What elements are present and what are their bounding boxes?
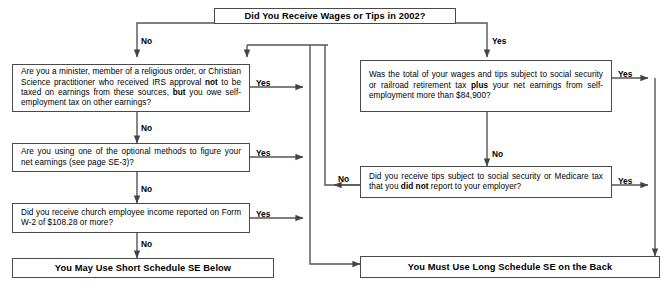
node-right-question-1: Was the total of your wages and tips sub…: [360, 60, 612, 112]
edge-label-right2-yes: Yes: [618, 177, 632, 186]
node-left-question-3: Did you receive church employee income r…: [12, 203, 250, 233]
edge-label-left3-no: No: [141, 240, 152, 249]
node-right-question-2-text: Did you receive tips subject to social s…: [361, 172, 611, 193]
node-result-short-schedule-text: You May Use Short Schedule SE Below: [13, 263, 273, 274]
node-result-long-schedule: You Must Use Long Schedule SE on the Bac…: [360, 256, 660, 278]
node-top-question: Did You Receive Wages or Tips in 2002?: [214, 8, 456, 24]
edge-label-right2-no: No: [338, 175, 349, 184]
edge-label-left1-yes: Yes: [256, 79, 270, 88]
node-left-question-1: Are you a minister, member of a religiou…: [12, 64, 250, 112]
node-right-question-2: Did you receive tips subject to social s…: [360, 166, 612, 198]
node-right-question-1-text: Was the total of your wages and tips sub…: [361, 70, 611, 101]
node-left-question-2-text: Are you using one of the optional method…: [13, 147, 249, 168]
edge-label-left1-no: No: [141, 124, 152, 133]
edge-label-right1-yes: Yes: [618, 70, 632, 79]
edge-label-top-no: No: [141, 37, 152, 46]
node-left-question-3-text: Did you receive church employee income r…: [13, 208, 249, 229]
node-left-question-1-text: Are you a minister, member of a religiou…: [13, 67, 249, 109]
edge-label-left3-yes: Yes: [256, 210, 270, 219]
edge-label-left2-no: No: [141, 185, 152, 194]
node-left-question-2: Are you using one of the optional method…: [12, 143, 250, 172]
node-result-long-schedule-text: You Must Use Long Schedule SE on the Bac…: [361, 262, 659, 273]
edge-label-right1-no: No: [492, 150, 503, 159]
edge-label-top-yes: Yes: [492, 37, 506, 46]
flowchart-canvas: Did You Receive Wages or Tips in 2002? A…: [0, 0, 671, 289]
node-top-question-text: Did You Receive Wages or Tips in 2002?: [215, 11, 455, 22]
node-result-short-schedule: You May Use Short Schedule SE Below: [12, 258, 274, 278]
edge-label-left2-yes: Yes: [256, 149, 270, 158]
